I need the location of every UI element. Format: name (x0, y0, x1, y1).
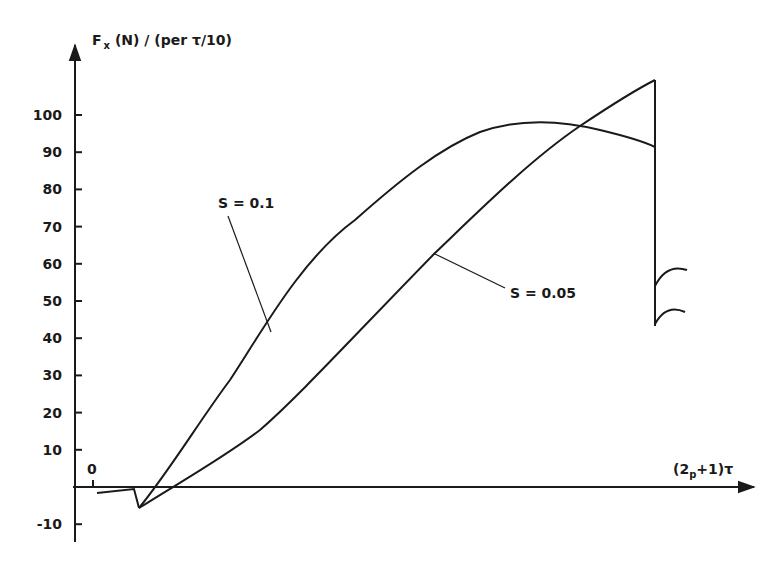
y-tick-label: 90 (43, 144, 63, 160)
y-tick-label: 40 (43, 330, 63, 346)
common-start-segment (97, 489, 139, 508)
y-tick-label: -10 (37, 516, 63, 532)
y-tick-label: 60 (43, 256, 63, 272)
y-tick-label: 10 (43, 442, 63, 458)
x-origin-label: 0 (87, 461, 97, 477)
y-tick-label: 100 (33, 107, 62, 123)
y-tick-label: 70 (43, 219, 63, 235)
force-chart: -10102030405060708090100 0 Fx (N) / (per… (0, 0, 776, 567)
annotation-leader-s-0-05 (435, 254, 505, 288)
annotation-s-0-05: S = 0.05 (510, 285, 576, 301)
tail-arc-s-0-05 (655, 309, 685, 324)
y-tick-label: 20 (43, 405, 63, 421)
series-s-0-1-line (139, 122, 655, 508)
tail-arc-s-0-1 (655, 268, 687, 286)
x-axis-title: (2p+1)τ (673, 461, 733, 480)
y-tick-label: 30 (43, 367, 63, 383)
y-tick-labels: -10102030405060708090100 (33, 107, 62, 532)
y-tick-label: 80 (43, 181, 63, 197)
annotation-s-0-1: S = 0.1 (218, 195, 274, 211)
y-axis-title: Fx (N) / (per τ/10) (92, 32, 232, 51)
y-tick-label: 50 (43, 293, 63, 309)
y-ticks (75, 115, 82, 524)
annotation-leader-s-0-1 (228, 216, 271, 332)
axes (73, 45, 754, 542)
series-s-0-05-line (139, 80, 655, 508)
